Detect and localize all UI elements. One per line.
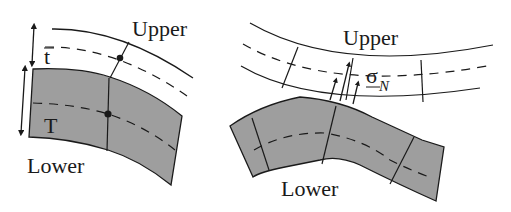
lower-node — [104, 110, 111, 117]
stress-symbol: σ — [366, 63, 378, 88]
right-upper-section-1 — [282, 47, 298, 88]
stress-arrow-left — [330, 80, 336, 100]
thick-thickness-arrow — [21, 68, 25, 133]
thin-thickness-arrow — [32, 26, 34, 64]
upper-node — [117, 55, 124, 62]
right-upper-label: Upper — [343, 25, 399, 50]
right-lower-label: Lower — [281, 176, 339, 201]
left-panel: Upper t T Lower — [21, 16, 193, 185]
stress-subscript: N — [378, 78, 390, 94]
stress-arrow-right — [353, 83, 358, 104]
left-lower-label: Lower — [27, 153, 85, 178]
right-upper-bottom-edge — [241, 66, 480, 96]
right-panel: Upper σ N Lower — [230, 23, 493, 201]
left-upper-label: Upper — [132, 16, 188, 41]
right-upper-section-3 — [421, 60, 423, 102]
shell-layers-diagram: Upper t T Lower Upper σ N Lower — [0, 0, 511, 212]
thick-thickness-label: T — [44, 113, 58, 138]
